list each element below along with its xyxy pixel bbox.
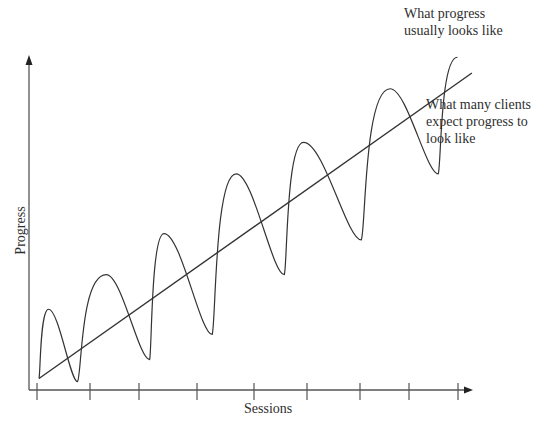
annotation-line: expect progress to: [426, 113, 531, 130]
annotation-actual-progress: What progress usually looks like: [404, 5, 503, 39]
progress-chart: [0, 0, 555, 433]
annotation-line: usually looks like: [404, 22, 503, 39]
annotation-line: What many clients: [426, 96, 531, 113]
annotation-line: look like: [426, 130, 531, 147]
x-axis-arrow-icon: [464, 387, 473, 394]
annotation-expected-progress: What many clients expect progress to loo…: [426, 96, 531, 147]
annotation-line: What progress: [404, 5, 503, 22]
expected-progress-line: [39, 73, 472, 379]
y-axis-label: Progress: [12, 201, 29, 261]
x-axis-label: Sessions: [244, 400, 292, 417]
y-axis-arrow-icon: [26, 55, 33, 65]
actual-progress-curve: [39, 57, 457, 381]
